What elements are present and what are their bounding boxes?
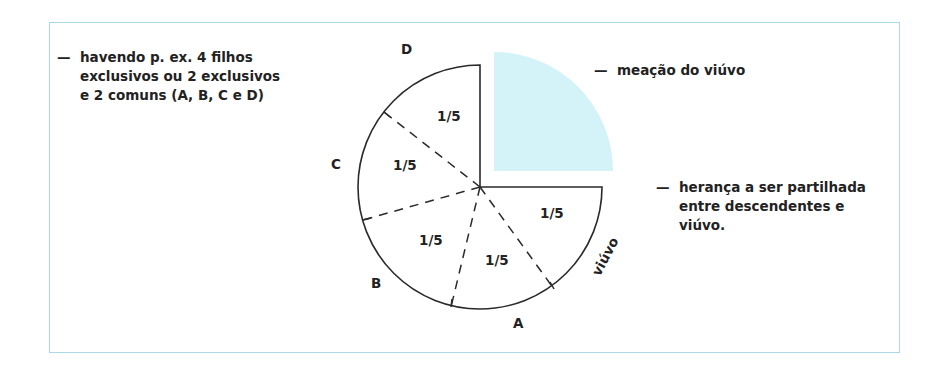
sector-label-d: D: [401, 43, 412, 57]
divider-line: [384, 112, 480, 187]
sector-label-c: C: [331, 158, 341, 172]
meacao-quadrant: [494, 52, 613, 171]
pie-diagram: [0, 0, 948, 374]
fraction-viuvo: 1/5: [540, 207, 564, 221]
divider-line: [480, 187, 554, 289]
fraction-a: 1/5: [485, 254, 509, 268]
fraction-c: 1/5: [393, 159, 417, 173]
divider-line: [451, 187, 480, 307]
fraction-d: 1/5: [437, 110, 461, 124]
sector-label-a: A: [513, 317, 523, 331]
fraction-b: 1/5: [419, 234, 443, 248]
divider-line: [363, 187, 480, 220]
sector-label-b: B: [371, 277, 381, 291]
